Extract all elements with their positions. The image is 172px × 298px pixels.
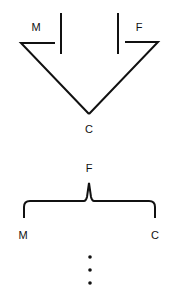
label-brace-left: M [18, 229, 27, 241]
label-top-bottom: C [85, 123, 93, 135]
diagram-canvas: M F C F M C [0, 0, 172, 298]
label-brace-right: C [151, 229, 159, 241]
label-top-right: F [136, 21, 143, 33]
v-shape-left-arm [21, 43, 89, 114]
curly-brace [24, 183, 155, 218]
vertical-ellipsis-icon [88, 255, 92, 285]
label-top-left: M [31, 21, 40, 33]
label-brace-top: F [86, 162, 93, 174]
v-shape-right-arm [89, 42, 158, 114]
